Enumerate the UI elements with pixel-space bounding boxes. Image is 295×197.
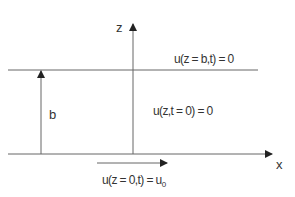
z-axis-label: z: [116, 21, 123, 34]
top-boundary-condition: u(z = b,t) = 0: [174, 53, 234, 65]
bottom-condition-subscript: 0: [162, 180, 166, 189]
diagram-canvas: [0, 0, 295, 197]
height-b-label: b: [49, 108, 56, 121]
initial-condition: u(z,t = 0) = 0: [153, 105, 213, 117]
x-axis-label: x: [276, 158, 283, 171]
bottom-boundary-condition: u(z = 0,t) = u0: [102, 174, 166, 189]
bottom-condition-text: u(z = 0,t) = u: [102, 173, 162, 187]
